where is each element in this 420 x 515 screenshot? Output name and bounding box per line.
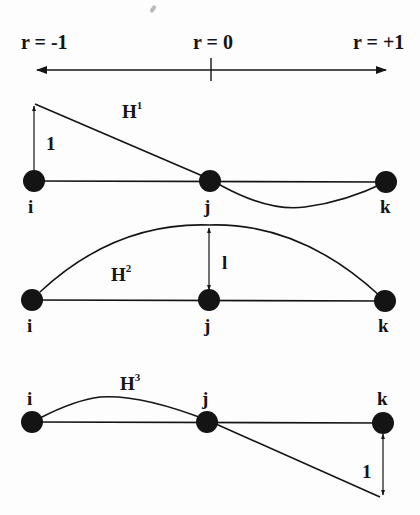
h1-curve: [35, 104, 386, 208]
h3-node-i-label: i: [27, 389, 32, 408]
h3-unit-label: 1: [362, 462, 372, 481]
diagram-graphics: [0, 0, 420, 515]
shape-function-figure: r = -1 r = 0 r = +1: [0, 0, 420, 515]
h2-curve: [40, 225, 380, 296]
diagram-h2: [21, 225, 396, 312]
h2-node-i-label: i: [27, 316, 32, 335]
h2-label: H2: [111, 263, 131, 284]
h1-node-i-label: i: [28, 197, 33, 216]
node-k: [374, 290, 396, 312]
h2-node-j-label: j: [204, 316, 210, 335]
diagram-h3: [21, 397, 394, 497]
r-axis: [37, 58, 386, 81]
node-j: [196, 411, 218, 433]
node-i: [23, 170, 45, 192]
node-i: [21, 289, 43, 311]
node-i: [21, 411, 43, 433]
h3-node-k-label: k: [377, 389, 388, 408]
h1-unit-label: 1: [46, 134, 56, 153]
node-j: [199, 170, 221, 192]
h1-label: H1: [122, 100, 142, 121]
h3-node-j-label: j: [202, 389, 208, 408]
node-k: [372, 412, 394, 434]
node-j: [198, 289, 220, 311]
h1-node-k-label: k: [380, 197, 391, 216]
h2-unit-label: l: [222, 253, 227, 272]
diagram-h1: [23, 104, 397, 208]
h3-label: H3: [120, 372, 140, 393]
h1-node-j-label: j: [204, 197, 210, 216]
node-k: [375, 171, 397, 193]
h2-node-k-label: k: [378, 316, 389, 335]
